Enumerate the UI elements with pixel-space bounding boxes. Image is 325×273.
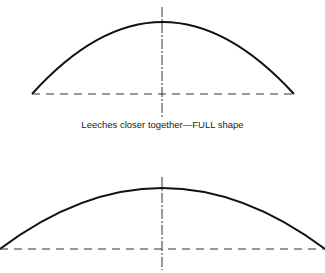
- full-shape-curve: [32, 22, 294, 94]
- flat-shape-diagram: [0, 177, 325, 270]
- full-shape-caption: Leeches closer together—FULL shape: [0, 119, 325, 130]
- sail-shapes-drawing: [0, 0, 325, 273]
- diagram-canvas: Leeches closer together—FULL shape: [0, 0, 325, 273]
- full-shape-diagram: [32, 7, 294, 118]
